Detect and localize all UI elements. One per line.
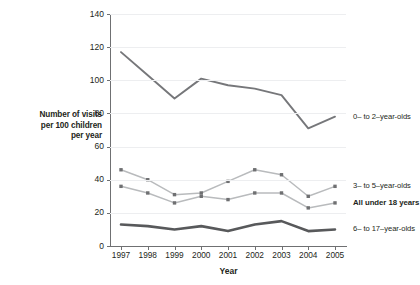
gridline xyxy=(110,213,346,214)
y-tick-mark xyxy=(107,180,110,181)
y-axis-title-line-3: per year xyxy=(6,131,102,142)
gridline xyxy=(110,147,346,148)
data-point-marker xyxy=(307,206,310,209)
series-line xyxy=(121,186,335,208)
x-tick-mark xyxy=(228,247,229,250)
x-axis-title: Year xyxy=(110,266,347,276)
y-tick-label: 100 xyxy=(74,75,104,85)
data-point-marker xyxy=(280,173,283,176)
x-tick-mark xyxy=(175,247,176,250)
y-tick-label: 20 xyxy=(74,207,104,217)
data-point-marker xyxy=(119,185,122,188)
data-point-marker xyxy=(226,198,229,201)
data-point-marker xyxy=(253,191,256,194)
x-tick-mark xyxy=(201,247,202,250)
gridline xyxy=(110,14,346,15)
series-label-1: 0– to 2–year-olds xyxy=(353,112,411,121)
y-tick-mark xyxy=(107,47,110,48)
x-tick-mark xyxy=(282,247,283,250)
y-tick-mark xyxy=(107,213,110,214)
y-tick-mark xyxy=(107,147,110,148)
data-point-marker xyxy=(253,168,256,171)
y-tick-label: 140 xyxy=(74,9,104,19)
gridline xyxy=(110,180,346,181)
data-point-marker xyxy=(307,195,310,198)
y-tick-mark xyxy=(107,246,110,247)
series-label-2: 3– to 5–year-olds xyxy=(353,181,411,190)
x-tick-mark xyxy=(308,247,309,250)
x-tick-mark xyxy=(121,247,122,250)
gridline xyxy=(110,47,346,48)
data-point-marker xyxy=(333,185,336,188)
series-line xyxy=(121,221,335,231)
x-tick-mark xyxy=(335,247,336,250)
data-point-marker xyxy=(200,195,203,198)
y-tick-mark xyxy=(107,113,110,114)
y-tick-label: 120 xyxy=(74,42,104,52)
data-point-marker xyxy=(119,168,122,171)
data-point-marker xyxy=(146,191,149,194)
x-tick-mark xyxy=(148,247,149,250)
y-tick-label: 60 xyxy=(74,141,104,151)
series-line xyxy=(121,52,335,128)
plot-area xyxy=(110,14,346,246)
data-point-marker xyxy=(200,191,203,194)
y-tick-mark xyxy=(107,80,110,81)
data-point-marker xyxy=(173,201,176,204)
gridline xyxy=(110,80,346,81)
series-label-3: All under 18 years xyxy=(353,198,419,207)
data-point-marker xyxy=(333,201,336,204)
series-lines xyxy=(110,14,346,246)
series-label-4: 6– to 17–year-olds xyxy=(353,224,415,233)
y-tick-label: 80 xyxy=(74,108,104,118)
y-axis-title-line-2: per 100 children xyxy=(6,121,102,132)
data-point-marker xyxy=(280,191,283,194)
y-tick-label: 40 xyxy=(74,174,104,184)
gridline xyxy=(110,113,346,114)
y-tick-mark xyxy=(107,14,110,15)
data-point-marker xyxy=(173,193,176,196)
chart-container: Number of visits per 100 children per ye… xyxy=(0,0,420,285)
x-tick-mark xyxy=(255,247,256,250)
x-tick-label: 2005 xyxy=(318,250,352,260)
y-tick-label: 0 xyxy=(74,241,104,251)
